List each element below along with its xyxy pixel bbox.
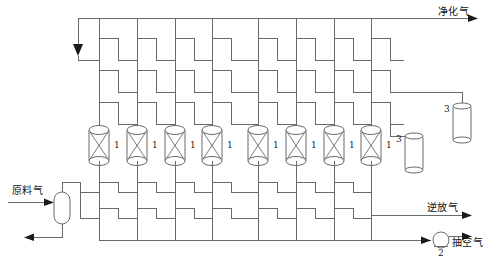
adsorber-tag-4: 1: [227, 141, 233, 150]
feed-gas-label: 原料气: [12, 186, 43, 196]
adsorber-tag-5: 1: [273, 141, 279, 150]
purified-gas-label: 净化气: [438, 7, 469, 17]
adsorber-tag-7: 1: [349, 141, 355, 150]
adsorber-tag-6: 1: [311, 141, 317, 150]
buffer-tank-lower-tag: 3: [396, 135, 402, 144]
adsorber-tag-3: 1: [190, 141, 196, 150]
vacuum-pump-tag: 2: [438, 249, 444, 258]
adsorber-tag-1: 1: [114, 141, 120, 150]
buffer-tank-upper-tag: 3: [444, 105, 450, 114]
adsorber-tag-2: 1: [152, 141, 158, 150]
label-layer: 净化气 原料气 逆放气 抽空气 1 1 1 1 1 1 1 1 3 3 2: [0, 0, 486, 265]
counter-current-gas-label: 逆放气: [427, 203, 458, 213]
process-flow-diagram: 净化气 原料气 逆放气 抽空气 1 1 1 1 1 1 1 1 3 3 2: [0, 0, 486, 265]
evacuation-gas-label: 抽空气: [452, 238, 483, 248]
adsorber-tag-8: 1: [386, 141, 392, 150]
